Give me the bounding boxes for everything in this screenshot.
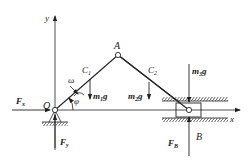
guide-hatch-top: [162, 97, 228, 101]
angle-arc-icon: [69, 98, 73, 110]
label-o: O: [43, 100, 50, 111]
joint-o-icon: [52, 107, 57, 112]
label-c1: C1: [82, 65, 91, 76]
label-fb: FB: [167, 138, 178, 149]
label-c2: C2: [148, 65, 157, 76]
label-m1g: m1g: [93, 91, 108, 102]
joint-b-icon: [186, 107, 191, 112]
label-b: B: [196, 131, 202, 142]
x-axis-label: x: [229, 114, 234, 124]
label-phi: φ: [74, 96, 79, 106]
label-fx: Fx: [15, 96, 25, 107]
label-fy: Fy: [59, 137, 69, 148]
label-m2g: m2g: [128, 91, 143, 102]
label-m3g: m3g: [192, 66, 207, 77]
label-a: A: [113, 40, 121, 51]
guide-hatch-bottom: [162, 118, 228, 122]
label-omega: ω: [68, 75, 74, 85]
y-axis-label: y: [44, 13, 49, 23]
slider-crank-diagram: y x O A B C1 C2 m1g m2g m3g Fx Fy FB ω φ: [0, 0, 248, 168]
crank-oa: [55, 55, 118, 110]
joint-a-icon: [115, 52, 120, 57]
